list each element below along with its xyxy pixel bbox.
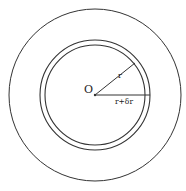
radius-r-label: r [118,71,122,80]
center-point [94,94,96,96]
radius-r-plus-dr-label: r+δr [115,97,133,106]
radius-r-line [95,63,135,95]
concentric-circles-diagram: O r r+δr [0,0,186,191]
center-label: O [84,83,93,96]
